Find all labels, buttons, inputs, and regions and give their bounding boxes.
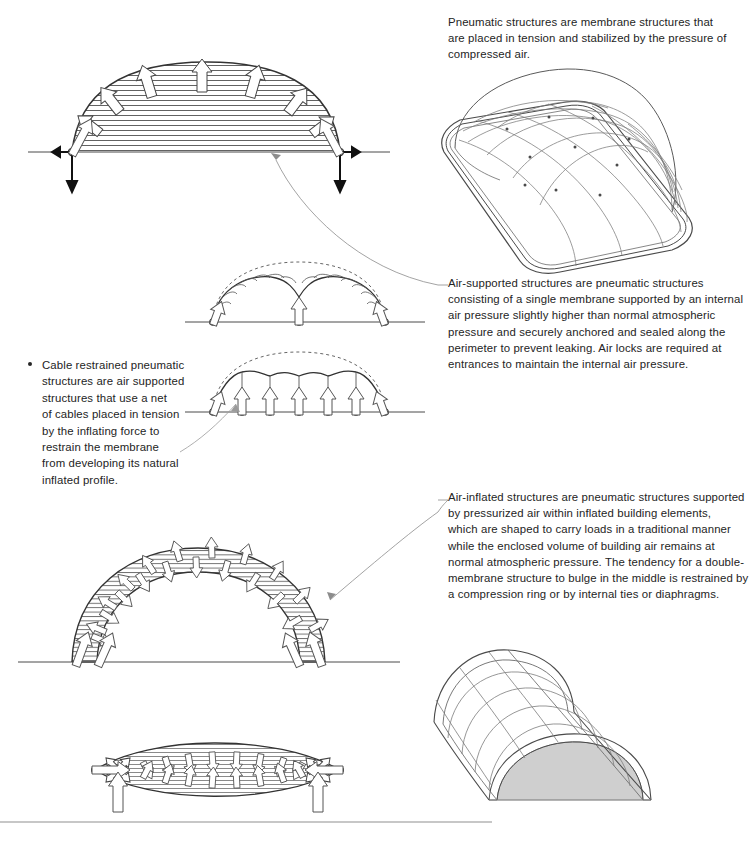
vault-interior-shade: [497, 742, 643, 800]
note-line: Air-inflated structures are pneumatic st…: [448, 489, 750, 505]
figure-cable-restrained-single: [185, 262, 425, 328]
base-ring-inner: [446, 105, 686, 269]
anchor-reaction-group: [206, 297, 392, 328]
note-air-supported: Air-supported structures are pneumatic s…: [448, 275, 748, 372]
note-line: air pressure slightly higher than normal…: [448, 307, 748, 323]
anchor-reaction: [369, 299, 392, 328]
diagram-page: Pneumatic structures are membrane struct…: [0, 0, 755, 843]
vault-edge-crown: [508, 650, 580, 734]
note-line: structures that use a net: [42, 390, 207, 406]
note-line: perimeter to prevent leaking. Air locks …: [448, 340, 748, 356]
note-line: a compression ring or by internal ties o…: [448, 586, 750, 602]
figure-air-supported-section: [28, 58, 390, 192]
leader-arrowhead-air-supported: [271, 153, 281, 160]
note-line: Cable restrained pneumatic: [42, 357, 207, 373]
figure-air-inflated-arch: [18, 537, 400, 670]
note-line: from developing its natural: [42, 455, 207, 471]
note-line: membrane structure to bulge in the middl…: [448, 570, 750, 586]
note-line: entrances to maintain the internal air p…: [448, 356, 748, 372]
note-line: pressure and securely anchored and seale…: [448, 324, 748, 340]
note-line: consisting of a single membrane supporte…: [448, 291, 748, 307]
note-line: while the enclosed volume of building ai…: [448, 538, 750, 554]
figure-air-supported-3d: [442, 69, 693, 273]
note-line: restrain the membrane: [42, 439, 207, 455]
note-line: Air-supported structures are pneumatic s…: [448, 275, 748, 291]
figure-air-inflated-vault-3d: [434, 650, 651, 800]
note-line: structures are air supported: [42, 373, 207, 389]
cable-net-meridians: [463, 100, 681, 212]
note-line: compressed air.: [448, 46, 748, 62]
dome-silhouette: [455, 69, 676, 212]
figure-cable-restrained-multi: [185, 352, 425, 418]
cable-net-nodes: [506, 116, 631, 197]
dome-silhouette-lower: [455, 148, 500, 180]
note-line: Pneumatic structures are membrane struct…: [448, 14, 748, 30]
note-line: are placed in tension and stabilized by …: [448, 30, 748, 46]
note-pneumatic: Pneumatic structures are membrane struct…: [448, 14, 748, 63]
figure-air-inflated-beam: [90, 728, 350, 812]
note-line: by the inflating force to: [42, 423, 207, 439]
leader-line-air-inflated: [330, 512, 438, 600]
leader-line-air-supported: [276, 160, 438, 285]
cable-net-hoops: [459, 104, 687, 266]
vault-far-arch-outer: [434, 650, 574, 722]
note-air-inflated: Air-inflated structures are pneumatic st…: [448, 489, 750, 602]
note-line: normal atmospheric pressure. The tendenc…: [448, 554, 750, 570]
leader-line-air-inflated-tail: [438, 500, 448, 512]
vault-edge-left-outer: [434, 722, 489, 800]
dome-pressure-hatching: [60, 58, 360, 156]
note-cable-restrained: Cable restrained pneumatic structures ar…: [42, 357, 207, 488]
note-line: by pressurized air within inflated build…: [448, 505, 750, 521]
arch-base-reaction-group: [68, 629, 330, 669]
anchor-reaction-group: [206, 387, 392, 418]
note-line: of cables placed in tension: [42, 406, 207, 422]
note-line: inflated profile.: [42, 472, 207, 488]
bullet-icon: [28, 362, 32, 366]
note-line: which are shaped to carry loads in a tra…: [448, 521, 750, 537]
anchor-reaction: [291, 297, 307, 325]
